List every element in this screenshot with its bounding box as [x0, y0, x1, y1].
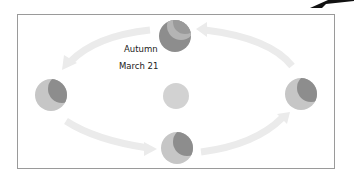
earth-right-icon [285, 74, 325, 110]
date-label: March 21 [119, 62, 158, 71]
earth-left-icon [35, 75, 76, 111]
earth-top-icon [159, 10, 197, 52]
external-pointer-arrow-icon [308, 0, 354, 10]
earth-bottom-icon [161, 128, 201, 164]
orbit-arrow-top-right [205, 30, 292, 66]
season-label: Autumn [124, 45, 158, 54]
orbit-arrow-bottom-right [201, 118, 282, 152]
orbit-arrow-bottom-left [66, 121, 148, 148]
arrowhead-bottom-icon [144, 142, 157, 156]
sun-icon [163, 83, 189, 109]
arrowhead-top-icon [196, 22, 207, 37]
orbit-diagram [0, 0, 354, 180]
